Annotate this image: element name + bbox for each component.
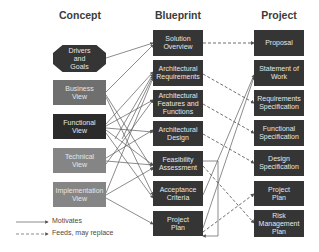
blueprint-architectural-requirements: Architectural Requirements — [153, 60, 203, 86]
project-design-specification: Design Specification — [254, 150, 304, 176]
box-label: Risk Management Plan — [255, 212, 303, 236]
blueprint-project-plan: Project Plan — [153, 211, 203, 236]
project-project-plan: Project Plan — [254, 181, 304, 206]
blueprint-column-title: Blueprint — [138, 9, 218, 21]
box-label: Architectural Design — [154, 126, 202, 142]
project-proposal: Proposal — [254, 30, 304, 56]
box-label: Acceptance Criteria — [156, 186, 201, 202]
box-label: Drivers and Goals — [65, 47, 95, 71]
box-label: Proposal — [265, 39, 293, 47]
concept-implementation-view: Implementation View — [53, 182, 106, 207]
box-label: Requirements Specification — [255, 95, 303, 111]
project-column-title: Project — [239, 9, 319, 21]
box-label: Implementation View — [54, 187, 105, 203]
box-label: Architectural Features and Functions — [154, 92, 202, 116]
concept-functional-view: Functional View — [53, 114, 106, 139]
box-label: Design Specification — [255, 155, 303, 171]
box-label: Project Plan — [163, 216, 193, 232]
legend-motivates: Motivates — [52, 217, 82, 224]
box-label: Architectural Requirements — [154, 65, 202, 81]
box-label: Functional Specification — [255, 125, 303, 141]
box-label: Feasibility Assessment — [154, 156, 202, 172]
box-label: Functional View — [57, 119, 102, 135]
project-functional-specification: Functional Specification — [254, 120, 304, 146]
blueprint-feasibility-assessment: Feasibility Assessment — [153, 151, 203, 176]
box-label: Technical View — [57, 153, 102, 169]
blueprint-architectural-features-functions: Architectural Features and Functions — [153, 90, 203, 117]
project-statement-of-work: Statement of Work — [254, 60, 304, 86]
concept-column-title: Concept — [40, 9, 120, 21]
box-label: Solution Overview — [157, 35, 199, 51]
blueprint-solution-overview: Solution Overview — [153, 30, 203, 56]
blueprint-acceptance-criteria: Acceptance Criteria — [153, 181, 203, 206]
project-risk-management-plan: Risk Management Plan — [254, 210, 304, 237]
box-label: Business View — [60, 85, 100, 101]
legend-feeds: Feeds, may replace — [52, 229, 113, 236]
blueprint-architectural-design: Architectural Design — [153, 121, 203, 146]
concept-business-view: Business View — [53, 80, 106, 105]
box-label: Statement of Work — [259, 65, 299, 81]
concept-technical-view: Technical View — [53, 148, 106, 173]
concept-drivers-and-goals: Drivers and Goals — [53, 45, 106, 72]
box-label: Project Plan — [264, 186, 294, 202]
project-requirements-specification: Requirements Specification — [254, 90, 304, 116]
